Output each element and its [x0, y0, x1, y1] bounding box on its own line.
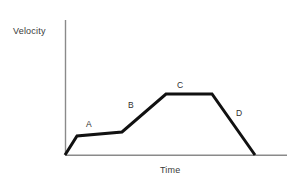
velocity-curve — [65, 94, 255, 155]
y-axis-title: Velocity — [13, 26, 46, 36]
segment-label-c: C — [177, 80, 183, 90]
segment-label-a: A — [86, 119, 92, 129]
x-axis-title: Time — [160, 165, 180, 175]
segment-label-b: B — [128, 100, 134, 110]
velocity-time-graph-figure: Velocity Time A B C D — [0, 0, 299, 183]
segment-label-d: D — [236, 108, 242, 118]
